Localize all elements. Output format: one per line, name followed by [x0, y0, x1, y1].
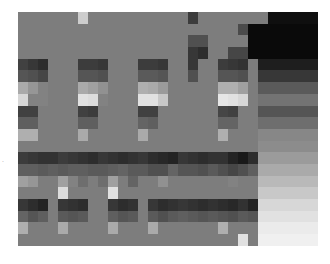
heatmap-cell: [68, 82, 78, 94]
heatmap-cell: [78, 47, 88, 59]
heatmap-cell: [278, 187, 288, 199]
heatmap-cell: [258, 176, 268, 188]
heatmap-cell: [18, 24, 28, 36]
heatmap-cell: [48, 187, 58, 199]
heatmap-cell: [108, 234, 118, 246]
heatmap-cell: [108, 164, 118, 176]
heatmap-cell: [268, 129, 278, 141]
heatmap-cell: [138, 35, 148, 47]
heatmap-cell: [88, 164, 98, 176]
heatmap-cell: [248, 176, 258, 188]
heatmap-cell: [278, 106, 288, 118]
heatmap-cell: [168, 82, 178, 94]
heatmap-cell: [198, 47, 208, 59]
heatmap-cell: [238, 187, 248, 199]
heatmap-cell: [108, 24, 118, 36]
heatmap-cell: [208, 187, 218, 199]
heatmap-cell: [158, 222, 168, 234]
heatmap-cell: [38, 222, 48, 234]
heatmap-cell: [128, 176, 138, 188]
heatmap-cell: [68, 70, 78, 82]
heatmap-cell: [228, 187, 238, 199]
heatmap-cell: [118, 211, 128, 223]
heatmap-cell: [198, 117, 208, 129]
heatmap-cell: [148, 117, 158, 129]
heatmap-cell: [168, 106, 178, 118]
heatmap-cell: [298, 35, 308, 47]
heatmap-cell: [218, 94, 228, 106]
heatmap-cell: [58, 234, 68, 246]
heatmap-cell: [178, 141, 188, 153]
heatmap-cell: [178, 35, 188, 47]
heatmap-cell: [168, 70, 178, 82]
heatmap-cell: [68, 152, 78, 164]
heatmap-cell: [298, 106, 308, 118]
heatmap-cell: [68, 12, 78, 24]
heatmap-cell: [138, 12, 148, 24]
heatmap-cell: [18, 211, 28, 223]
heatmap-cell: [48, 70, 58, 82]
heatmap-cell: [238, 24, 248, 36]
heatmap-cell: [258, 141, 268, 153]
heatmap-cell: [138, 24, 148, 36]
heatmap-cell: [268, 94, 278, 106]
heatmap-cell: [238, 35, 248, 47]
heatmap-cell: [228, 176, 238, 188]
heatmap-cell: [18, 129, 28, 141]
heatmap-cell: [188, 106, 198, 118]
heatmap-cell: [48, 211, 58, 223]
heatmap-cell: [238, 176, 248, 188]
heatmap-cell: [138, 129, 148, 141]
heatmap-cell: [278, 234, 288, 246]
heatmap-cell: [278, 59, 288, 71]
heatmap-cell: [108, 12, 118, 24]
heatmap-cell: [178, 59, 188, 71]
heatmap-cell: [168, 129, 178, 141]
heatmap-cell: [88, 187, 98, 199]
heatmap-cell: [148, 187, 158, 199]
heatmap-cell: [148, 82, 158, 94]
heatmap-cell: [238, 222, 248, 234]
heatmap-cell: [78, 187, 88, 199]
heatmap-cell: [218, 117, 228, 129]
heatmap-cell: [258, 94, 268, 106]
heatmap-cell: [128, 24, 138, 36]
heatmap-cell: [128, 187, 138, 199]
heatmap-cell: [268, 59, 278, 71]
heatmap-cell: [138, 222, 148, 234]
heatmap-cell: [138, 187, 148, 199]
heatmap-cell: [268, 35, 278, 47]
heatmap-cell: [28, 24, 38, 36]
heatmap-cell: [268, 152, 278, 164]
heatmap-cell: [168, 187, 178, 199]
heatmap-cell: [288, 94, 298, 106]
heatmap-cell: [178, 199, 188, 211]
heatmap-cell: [128, 12, 138, 24]
heatmap-cell: [288, 164, 298, 176]
heatmap-cell: [28, 222, 38, 234]
heatmap-cell: [98, 35, 108, 47]
heatmap-cell: [108, 117, 118, 129]
heatmap-cell: [18, 94, 28, 106]
heatmap-cell: [128, 234, 138, 246]
heatmap-cell: [268, 82, 278, 94]
heatmap-cell: [98, 164, 108, 176]
heatmap-cell: [218, 12, 228, 24]
heatmap-cell: [78, 106, 88, 118]
heatmap-cell: [288, 106, 298, 118]
heatmap-cell: [248, 47, 258, 59]
heatmap-cell: [258, 59, 268, 71]
heatmap-cell: [268, 47, 278, 59]
heatmap-cell: [268, 222, 278, 234]
heatmap-cell: [98, 129, 108, 141]
heatmap-cell: [58, 152, 68, 164]
heatmap-cell: [138, 117, 148, 129]
heatmap-cell: [168, 117, 178, 129]
heatmap-cell: [48, 129, 58, 141]
heatmap-cell: [178, 70, 188, 82]
heatmap-cell: [158, 35, 168, 47]
heatmap-cell: [58, 106, 68, 118]
heatmap-cell: [88, 82, 98, 94]
heatmap-cell: [258, 187, 268, 199]
heatmap-cell: [58, 199, 68, 211]
